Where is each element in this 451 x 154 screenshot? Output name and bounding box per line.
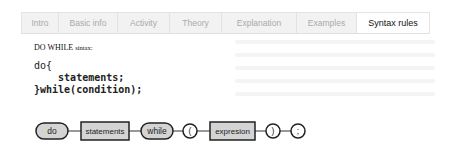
svg-text:): )	[272, 126, 275, 136]
svg-text:;: ;	[297, 126, 299, 136]
node-while: while	[141, 123, 173, 139]
svg-text:statements: statements	[85, 127, 124, 136]
node-open-paren: (	[183, 124, 197, 138]
node-do: do	[36, 123, 68, 139]
node-expresion: expresion	[210, 122, 255, 140]
node-statements: statements	[81, 122, 129, 140]
svg-text:(: (	[189, 126, 192, 136]
syntax-diagram: do statements while ( expresion ) ;	[0, 0, 451, 154]
node-semicolon: ;	[291, 124, 305, 138]
svg-text:while: while	[146, 126, 167, 136]
svg-text:do: do	[47, 126, 57, 136]
node-close-paren: )	[266, 124, 280, 138]
svg-text:expresion: expresion	[215, 127, 250, 136]
